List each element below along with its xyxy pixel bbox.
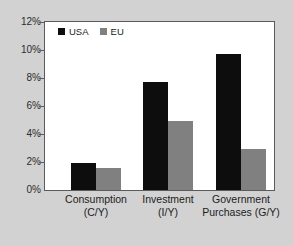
x-axis-category-label: GovernmentPurchases (G/Y) bbox=[171, 193, 293, 219]
bar-eu-2 bbox=[241, 149, 266, 190]
y-axis-tick-label: 12% bbox=[7, 17, 41, 27]
y-axis-tick-label: 6% bbox=[7, 101, 41, 111]
legend-entry-eu: EU bbox=[100, 27, 124, 37]
legend-label: USA bbox=[69, 27, 89, 37]
legend: USAEU bbox=[58, 27, 124, 37]
legend-entry-usa: USA bbox=[58, 27, 89, 37]
bar-eu-0 bbox=[96, 168, 121, 190]
bar-eu-1 bbox=[168, 121, 193, 190]
y-axis-tick-label: 8% bbox=[7, 73, 41, 83]
legend-swatch-icon bbox=[58, 28, 65, 35]
bar-group bbox=[143, 22, 193, 190]
bar-group bbox=[71, 22, 121, 190]
y-axis-tick-label: 10% bbox=[7, 45, 41, 55]
x-axis-category-line2: Purchases (G/Y) bbox=[171, 206, 293, 219]
y-axis-tick-label: 4% bbox=[7, 129, 41, 139]
legend-swatch-icon bbox=[100, 28, 107, 35]
bars-container bbox=[45, 22, 274, 190]
bar-usa-0 bbox=[71, 163, 96, 190]
legend-label: EU bbox=[111, 27, 124, 37]
bar-group bbox=[216, 22, 266, 190]
bar-chart-figure: 0%2%4%6%8%10%12% Consumption(C/Y)Investm… bbox=[0, 0, 293, 246]
bar-usa-2 bbox=[216, 54, 241, 190]
bar-usa-1 bbox=[143, 82, 168, 191]
y-axis-tick-label: 2% bbox=[7, 157, 41, 167]
x-axis-category-line1: Government bbox=[171, 193, 293, 206]
